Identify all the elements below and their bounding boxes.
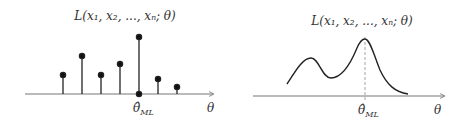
left-theta-axis-label: θ: [207, 101, 215, 115]
right-title: L(x₁, x₂, ..., xₙ; θ): [310, 14, 413, 28]
right-theta-ml-label: θ̂ML: [358, 103, 379, 119]
likelihood-curve: [287, 39, 408, 94]
right-panel: L(x₁, x₂, ..., xₙ; θ) θ̂ML θ: [253, 14, 444, 119]
left-panel: L(x₁, x₂, ..., xₙ; θ) θ̂ML θ: [25, 9, 215, 117]
likelihood-diagram: L(x₁, x₂, ..., xₙ; θ) θ̂ML θ L(x₁, x₂, .…: [0, 0, 464, 123]
left-title: L(x₁, x₂, ..., xₙ; θ): [73, 9, 176, 23]
left-theta-ml-label: θ̂ML: [133, 101, 154, 117]
right-theta-axis-label: θ: [434, 103, 442, 117]
stems: [60, 34, 179, 96]
